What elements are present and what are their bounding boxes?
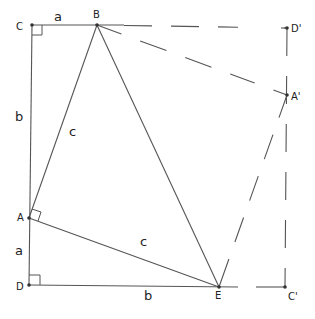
right-angle-C: [32, 25, 42, 35]
segment-BD-prime: [97, 25, 287, 28]
segment-BE: [97, 25, 219, 287]
segment-AE: [29, 218, 219, 287]
segment-CD: [29, 25, 32, 285]
segment-BA-prime: [97, 25, 287, 95]
side-label-AE: c: [140, 234, 147, 249]
dot-B: [95, 23, 99, 27]
label-D: D: [16, 281, 24, 292]
segment-A-prime-E: [219, 95, 287, 287]
dot-E: [217, 285, 221, 289]
dot-D-prime: [285, 26, 289, 30]
side-label-CB: a: [54, 9, 62, 24]
right-angle-D: [29, 275, 40, 285]
dot-C: [30, 23, 34, 27]
label-A-prime: A': [291, 91, 301, 102]
label-A: A: [17, 212, 24, 223]
dot-D: [27, 283, 31, 287]
side-label-DE: b: [144, 288, 152, 303]
label-C: C: [16, 21, 23, 32]
label-C-prime: C': [288, 291, 298, 302]
segment-AB: [29, 25, 97, 218]
dot-A: [27, 216, 31, 220]
segment-D-prime-C-prime: [285, 28, 287, 287]
solid-segments: [29, 25, 238, 287]
dashed-segments: [97, 25, 287, 287]
label-E: E: [215, 290, 221, 301]
side-label-AD: a: [15, 243, 23, 258]
dot-A-prime: [285, 93, 289, 97]
segment-DE: [29, 285, 238, 287]
label-D-prime: D': [291, 23, 301, 34]
side-label-AB: c: [69, 124, 76, 139]
dot-C-prime: [283, 285, 287, 289]
side-label-CA: b: [15, 109, 23, 124]
pythagorean-proof-diagram: C B D' A' A D E C' a b c a c b: [0, 0, 315, 319]
label-B: B: [93, 9, 100, 20]
